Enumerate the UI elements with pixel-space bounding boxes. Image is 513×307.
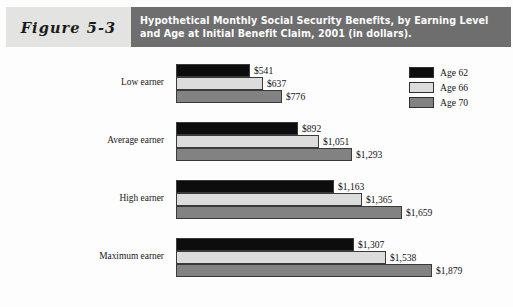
chart-legend: Age 62Age 66Age 70 [409,66,507,111]
figure-number-label: Figure 5-3 [21,19,117,36]
legend-item: Age 70 [409,96,507,109]
bar-group: Maximum earner$1,307$1,538$1,879 [0,236,513,276]
bar[interactable] [176,264,432,277]
bar-group-label: Low earner [0,62,170,102]
figure-title: Hypothetical Monthly Social Security Ben… [140,14,511,40]
bar[interactable] [176,64,250,77]
bar-group-label: Average earner [0,120,170,160]
legend-item: Age 66 [409,81,507,94]
bar-group-label: High earner [0,178,170,218]
bar-group-label: Maximum earner [0,236,170,276]
bar-group: Average earner$892$1,051$1,293 [0,120,513,160]
figure-title-box: Hypothetical Monthly Social Security Ben… [131,7,511,47]
figure-container: Figure 5-3 Hypothetical Monthly Social S… [0,0,513,307]
bar[interactable] [176,148,352,161]
legend-item: Age 62 [409,66,507,79]
bar[interactable] [176,135,319,148]
bar-value-label: $1,538 [386,251,416,264]
bar[interactable] [176,206,402,219]
legend-label: Age 66 [440,82,468,93]
legend-swatch-icon [409,67,434,78]
bar-value-label: $637 [263,77,286,90]
bar-group: High earner$1,163$1,365$1,659 [0,178,513,218]
bar[interactable] [176,122,298,135]
bar-value-label: $1,659 [402,206,432,219]
legend-swatch-icon [409,97,434,108]
bar[interactable] [176,238,354,251]
bar-value-label: $541 [250,64,273,77]
bar-value-label: $1,879 [432,264,462,277]
bar-value-label: $1,293 [352,148,382,161]
figure-number-box: Figure 5-3 [6,7,131,47]
legend-label: Age 70 [440,97,468,108]
bar[interactable] [176,251,386,264]
bar-value-label: $1,163 [334,180,364,193]
bar[interactable] [176,77,263,90]
bar-value-label: $1,051 [319,135,349,148]
bar[interactable] [176,90,282,103]
bar-value-label: $1,365 [362,193,392,206]
bar-value-label: $1,307 [354,238,384,251]
figure-header-band: Figure 5-3 Hypothetical Monthly Social S… [6,7,511,47]
bar-value-label: $892 [298,122,321,135]
bar[interactable] [176,180,334,193]
bar-value-label: $776 [282,90,305,103]
bar[interactable] [176,193,362,206]
legend-swatch-icon [409,82,434,93]
legend-label: Age 62 [440,67,468,78]
